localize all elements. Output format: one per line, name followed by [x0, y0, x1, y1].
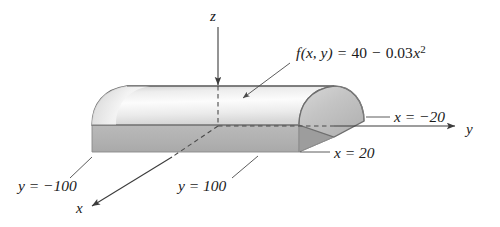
x-axis-label: x	[75, 200, 83, 216]
y-lower-bound-label: y = −100	[16, 177, 77, 194]
y-axis-label: y	[464, 121, 473, 137]
x-upper-bound-label: x = −20	[393, 108, 445, 125]
equation-constant: 40	[351, 44, 367, 61]
diagram-svg: z y x f(x, y)=40−0.03x2 x = −20 x = 20	[0, 0, 500, 227]
z-axis-label: z	[209, 8, 216, 24]
y-upper-bound-leader	[232, 156, 258, 178]
equation-minus: −	[372, 44, 381, 61]
x-lower-bound-label: x = 20	[333, 144, 375, 161]
x-axis-line	[92, 157, 172, 206]
equation-exponent: 2	[420, 43, 426, 55]
surface-equation-text: f(x, y)=40−0.03x2	[296, 43, 426, 63]
equation-coefficient: 0.03	[386, 44, 413, 61]
equation-arguments: (x, y)	[301, 44, 333, 62]
base-slab-front-face	[92, 125, 299, 152]
y-upper-bound-label: y = 100	[176, 177, 227, 194]
equation-equals: =	[338, 44, 347, 61]
solid-group	[92, 86, 364, 152]
figure-container: z y x f(x, y)=40−0.03x2 x = −20 x = 20	[0, 0, 500, 227]
equation-variable: x	[412, 44, 420, 61]
y-lower-bound-leader	[70, 157, 92, 178]
surface-equation: f(x, y)=40−0.03x2	[296, 43, 426, 63]
